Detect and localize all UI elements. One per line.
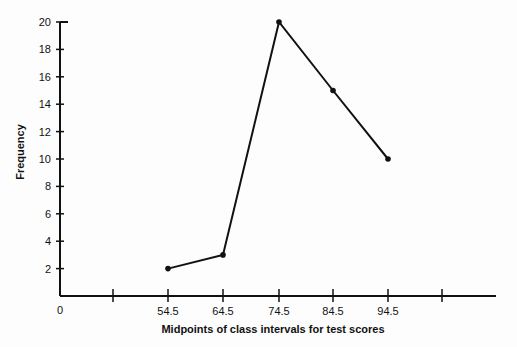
plot-line (165, 19, 391, 271)
data-point (276, 19, 282, 25)
data-point (330, 88, 336, 94)
y-tick-label: 20 (39, 16, 51, 28)
x-tick-label: 74.5 (268, 305, 289, 317)
y-tick-label: 8 (45, 180, 51, 192)
x-tick-label: 54.5 (157, 305, 178, 317)
y-tick-label: 10 (39, 153, 51, 165)
y-tick-label: 14 (39, 98, 51, 110)
x-tick-label: 64.5 (212, 305, 233, 317)
x-tick-label: 84.5 (322, 305, 343, 317)
frequency-line (168, 22, 388, 269)
data-point (385, 156, 391, 162)
x-tick-label: 94.5 (377, 305, 398, 317)
x-axis-title: Midpoints of class intervals for test sc… (161, 323, 384, 335)
data-point (220, 252, 226, 258)
y-tick-label: 18 (39, 43, 51, 55)
y-tick-label: 12 (39, 126, 51, 138)
axes: 246810121416182054.564.574.584.594.5 (39, 16, 496, 317)
x-origin-label: 0 (57, 304, 63, 316)
y-tick-label: 6 (45, 208, 51, 220)
y-tick-label: 16 (39, 71, 51, 83)
frequency-polygon-chart: 246810121416182054.564.574.584.594.5 Mid… (0, 0, 517, 347)
data-point (165, 266, 171, 272)
y-tick-label: 2 (45, 263, 51, 275)
chart-canvas: 246810121416182054.564.574.584.594.5 Mid… (0, 0, 517, 347)
y-tick-label: 4 (45, 235, 51, 247)
y-axis-title: Frequency (14, 123, 26, 180)
